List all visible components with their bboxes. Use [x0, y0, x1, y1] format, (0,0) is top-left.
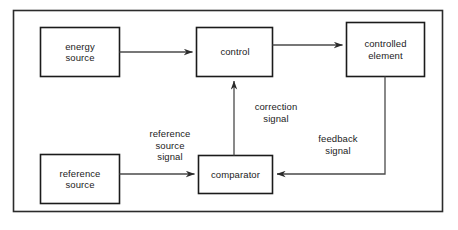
- edge-label-feedback-signal: feedback signal: [306, 133, 370, 156]
- node-box-control: [197, 28, 273, 77]
- edge-label-reference-source-signal: reference source signal: [124, 128, 216, 163]
- edge-label-correction-signal: correction signal: [243, 101, 309, 124]
- node-box-controlled-element: [347, 23, 425, 77]
- node-box-energy-source: [41, 28, 120, 77]
- diagram-graphics: [0, 0, 458, 230]
- block-diagram: energy source control controlled element…: [0, 0, 458, 230]
- node-box-reference-source: [41, 155, 120, 204]
